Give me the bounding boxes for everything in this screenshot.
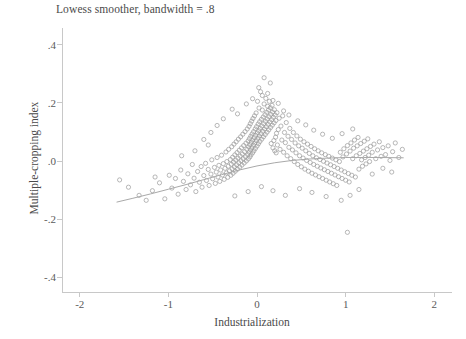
scatter-point [257,86,261,90]
scatter-point [214,170,218,174]
scatter-point [196,169,200,173]
scatter-point [348,193,352,197]
scatter-point [219,153,223,157]
scatter-point [381,146,385,150]
scatter-point [367,159,371,163]
scatter-point [372,142,376,146]
scatter-point [312,128,316,132]
scatter-point [203,161,207,165]
scatter-point [157,181,161,185]
scatter-point [281,109,285,113]
scatter-point [118,178,122,182]
scatter-point [255,99,259,103]
scatter-point [173,176,177,180]
scatter-point [241,132,245,136]
scatter-point [320,132,324,136]
scatter-point [250,97,254,101]
scatter-point [218,179,222,183]
scatter-point [296,119,300,123]
scatter-point [209,172,213,176]
scatter-point [219,168,223,172]
scatter-point [268,81,272,85]
scatter-point [366,137,370,141]
scatter-point [226,164,230,168]
scatter-point [184,187,188,191]
scatter-point [285,154,289,158]
scatter-point [293,141,297,145]
scatter-point [281,150,285,154]
scatter-point [199,164,203,168]
scatter-point [284,120,288,124]
scatter-point [281,114,285,118]
scatter-point [213,181,217,185]
scatter-point [381,166,385,170]
scatter-point [223,166,227,170]
scatter-point [349,141,353,145]
scatter-point [291,130,295,134]
scatter-point [260,108,264,112]
scatter-point [340,132,344,136]
scatter-point [126,185,130,189]
scatter-point [304,123,308,127]
scatter-point [221,117,225,121]
scatter-point [388,158,392,162]
scatter-point [330,136,334,140]
scatter-point [344,152,348,156]
scatter-point [289,137,293,141]
scatter-point [400,147,404,151]
scatter-point [279,124,283,128]
scatter-point [288,126,292,130]
scatter-point [202,137,206,141]
scatter-point [348,149,352,153]
scatter-point [206,167,210,171]
scatter-point [259,185,263,189]
scatter-point [180,154,184,158]
scatter-point [153,175,157,179]
scatter-point [186,172,190,176]
scatter-point [278,147,282,151]
scatter-point [335,183,339,187]
scatter-point [391,150,395,154]
scatter-point [290,148,294,152]
scatter-point [287,113,291,117]
scatter-point [377,140,381,144]
scatter-point [235,112,239,116]
scatter-point [297,187,301,191]
lowess-smoother-line [117,158,403,203]
scatter-point [217,163,221,167]
scatter-point [210,158,214,162]
scatter-point [193,149,197,153]
scatter-point [150,189,154,193]
scatter-point [282,130,286,134]
scatter-point [243,130,247,134]
scatter-point [357,187,361,191]
scatter-point [393,141,397,145]
scatter-point [233,194,237,198]
scatter-point [356,135,360,139]
scatter-point [224,150,228,154]
scatter-point [295,134,299,138]
scatter-point [167,173,171,177]
scatter-point [179,168,183,172]
scatter-point [144,198,148,202]
scatter-point [230,107,234,111]
scatter-point [383,153,387,157]
scatter-point [367,153,371,157]
scatter-point [206,143,210,147]
scatter-point [262,76,266,80]
scatter-point [353,175,357,179]
scatter-point [370,172,374,176]
plot-canvas [0,0,466,339]
scatter-point [357,167,361,171]
scatter-point [246,189,250,193]
scatter-point [337,159,341,163]
scatter-point [375,148,379,152]
scatter-point [294,151,298,155]
scatter-point [386,144,390,148]
scatter-point [215,155,219,159]
scatter-point [347,180,351,184]
scatter-point [194,189,198,193]
scatter-points-group [118,76,405,235]
scatter-point [324,194,328,198]
scatter-point [192,176,196,180]
